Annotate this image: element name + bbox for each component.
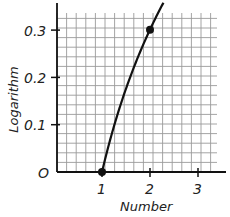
data-point	[146, 26, 154, 34]
axes	[51, 3, 226, 177]
y-tick-label-0.2: 0.2	[24, 71, 46, 85]
data-point	[98, 168, 106, 176]
x-axis-title: Number	[120, 200, 172, 213]
grid-lines	[57, 13, 217, 172]
y-tick-label-0.1: 0.1	[24, 118, 46, 132]
y-tick-label-0.3: 0.3	[24, 24, 46, 38]
y-axis-title: Logarithm	[7, 65, 20, 135]
origin-label: O	[38, 166, 49, 180]
x-tick-label-1: 1	[97, 182, 106, 196]
x-tick-label-3: 3	[193, 182, 202, 196]
x-tick-label-2: 2	[145, 182, 154, 196]
